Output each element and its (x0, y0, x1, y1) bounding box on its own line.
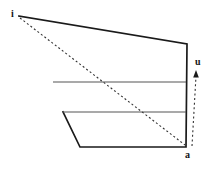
vertex-label-a: a (185, 150, 190, 160)
vertex-label-i: i (11, 9, 14, 19)
quadrilateral-diagram (0, 0, 216, 170)
arrow-label-u: u (195, 57, 201, 67)
